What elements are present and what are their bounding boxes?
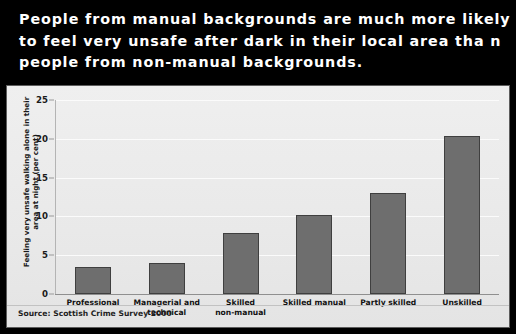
title-line-1: People from manual backgrounds are much … — [19, 9, 500, 31]
infographic-page: People from manual backgrounds are much … — [0, 0, 516, 334]
x-category-label: Skilled non-manual — [204, 298, 278, 317]
y-tick-label: 20 — [36, 134, 48, 144]
y-tick-mark — [49, 216, 54, 217]
bar — [296, 215, 332, 294]
y-tick-label: 0 — [42, 289, 48, 299]
y-tick-mark — [49, 294, 54, 295]
bar — [370, 193, 406, 294]
y-tick-mark — [49, 100, 54, 101]
chart-plot-background: Feeling very unsafe walking alone in the… — [7, 86, 509, 327]
x-category-label: Professional — [56, 298, 130, 308]
y-axis-title-line-1: Feeling very unsafe walking alone in the… — [22, 97, 31, 267]
title-line-3: people from non-manual backgrounds. — [19, 52, 500, 74]
plot-area: 0510152025ProfessionalManagerial and tec… — [56, 100, 499, 294]
y-tick-label: 10 — [36, 211, 48, 221]
chart-card: Feeling very unsafe walking alone in the… — [6, 85, 510, 328]
y-axis-line — [55, 100, 56, 294]
y-tick-mark — [49, 255, 54, 256]
bar — [444, 136, 480, 294]
gridline — [56, 139, 499, 140]
x-category-label: Unskilled — [425, 298, 499, 308]
y-tick-label: 25 — [36, 95, 48, 105]
title-banner: People from manual backgrounds are much … — [0, 0, 516, 84]
gridline — [56, 178, 499, 179]
bar — [149, 263, 185, 294]
y-tick-mark — [49, 177, 54, 178]
gridline — [56, 100, 499, 101]
x-category-label: Partly skilled — [351, 298, 425, 308]
bar — [223, 233, 259, 294]
x-axis-line — [55, 294, 499, 295]
y-tick-label: 5 — [42, 250, 48, 260]
gridline — [56, 216, 499, 217]
title-line-2: to feel very unsafe after dark in their … — [19, 31, 500, 53]
bar — [75, 267, 111, 294]
source-note: Source: Scottish Crime Survey 2000 — [18, 309, 172, 318]
y-tick-mark — [49, 138, 54, 139]
y-tick-label: 15 — [36, 173, 48, 183]
x-category-label: Skilled manual — [278, 298, 352, 308]
source-divider — [7, 305, 509, 306]
gridline — [56, 255, 499, 256]
